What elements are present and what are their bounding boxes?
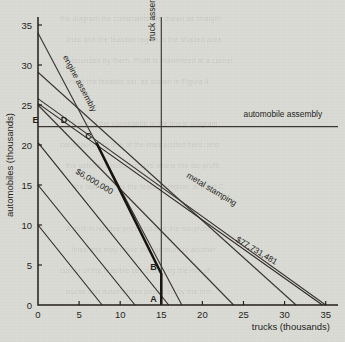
chart-lines-layer <box>38 17 338 305</box>
point-label-c: C <box>85 131 92 141</box>
point-label-a: A <box>150 294 157 304</box>
annotation-truck-assembly: truck assembly <box>147 0 157 41</box>
y-tick-label: 10 <box>21 220 32 231</box>
y-tick-label: 20 <box>21 140 32 151</box>
x-tick-label: 5 <box>76 309 81 320</box>
y-tick-label: 25 <box>21 100 32 111</box>
x-tick-label: 25 <box>238 309 249 320</box>
point-label-b: B <box>150 262 157 272</box>
chart-annotations-layer: engine assemblytruck assemblyautomobile … <box>61 0 323 267</box>
chart-axes <box>38 17 338 305</box>
y-tick-label: 0 <box>27 300 32 311</box>
annotation-metal-stamping: metal stamping <box>185 170 239 208</box>
series-constraint-5 <box>38 105 234 305</box>
series-isoprofit-77731481 <box>38 103 322 305</box>
point-label-e: E <box>32 115 38 125</box>
y-tick-label: 35 <box>21 20 32 31</box>
page-background: the diagram the constraints are drawn as… <box>0 0 345 342</box>
x-axis-label: trucks (thousands) <box>252 321 330 332</box>
x-tick-label: 0 <box>35 309 40 320</box>
x-tick-label: 15 <box>156 309 167 320</box>
x-tick-label: 35 <box>320 309 331 320</box>
series-feasible-frontier <box>96 143 161 305</box>
x-tick-label: 20 <box>197 309 208 320</box>
y-tick-label: 15 <box>21 180 32 191</box>
series-isoprofit-6000000 <box>38 143 169 305</box>
series-isoprofit-low-b <box>38 225 102 305</box>
y-axis-label: automobiles (thousands) <box>4 113 15 217</box>
annotation-engine-assembly: engine assembly <box>61 53 100 114</box>
point-label-d: D <box>61 115 68 125</box>
series-constraint-4 <box>38 72 296 305</box>
production-possibility-chart: 0510152025303505101520253035 engine asse… <box>0 0 345 342</box>
x-tick-label: 30 <box>279 309 290 320</box>
axis-ticks-layer <box>38 25 326 305</box>
annotation-automobile-assembly: automobile assembly <box>243 109 322 119</box>
annotation--77-731-481: $77,731,481 <box>234 234 279 267</box>
y-tick-label: 30 <box>21 60 32 71</box>
x-tick-label: 10 <box>115 309 126 320</box>
y-tick-label: 5 <box>27 260 32 271</box>
